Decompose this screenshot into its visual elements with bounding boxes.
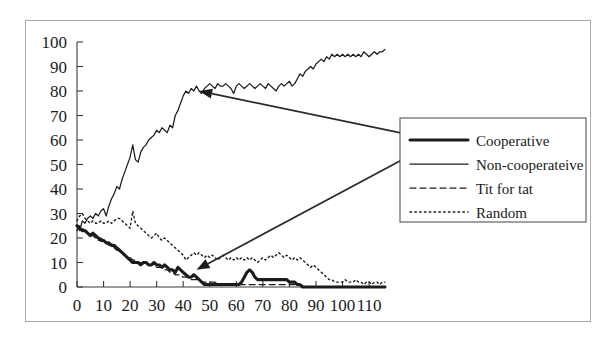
x-tick-label: 60 — [228, 296, 245, 315]
x-tick-label: 80 — [281, 296, 298, 315]
x-tick-label: 20 — [122, 296, 139, 315]
x-axis-tick-labels: 0102030405060708090100110 — [73, 296, 382, 315]
y-axis-group: 0102030405060708090100 — [42, 33, 84, 297]
y-tick-label: 50 — [50, 156, 67, 175]
x-tick-label: 50 — [201, 296, 218, 315]
x-tick-label: 90 — [307, 296, 324, 315]
x-tick-label: 10 — [95, 296, 112, 315]
y-tick-label: 80 — [50, 82, 67, 101]
x-tick-label: 40 — [175, 296, 192, 315]
legend: CooperativeNon-cooperateiveTit for tatRa… — [400, 118, 586, 222]
y-axis-ticks — [77, 42, 83, 287]
arrow-to-non-cooperative-shaft — [212, 94, 412, 135]
x-tick-label: 30 — [148, 296, 165, 315]
legend-label: Random — [476, 205, 527, 221]
series-line-cooperative — [77, 226, 385, 287]
y-tick-label: 10 — [50, 254, 67, 273]
y-tick-label: 30 — [50, 205, 67, 224]
y-tick-label: 60 — [50, 131, 67, 150]
annotation-arrows-group — [196, 89, 411, 270]
y-tick-label: 90 — [50, 58, 67, 77]
x-tick-label: 70 — [254, 296, 271, 315]
arrow-to-cooperative-shaft — [208, 155, 412, 264]
x-tick-label: 110 — [357, 296, 382, 315]
y-tick-label: 70 — [50, 107, 67, 126]
series-line-random — [77, 211, 385, 284]
arrow-to-cooperative-head — [196, 259, 210, 270]
y-tick-label: 100 — [42, 33, 68, 52]
y-tick-label: 20 — [50, 229, 67, 248]
legend-label: Tit for tat — [476, 181, 534, 197]
chart-figure: 0102030405060708090100 01020304050607080… — [0, 0, 615, 348]
series-line-tit-for-tat — [77, 226, 385, 287]
legend-label: Non-cooperateive — [476, 157, 584, 173]
x-tick-label: 0 — [73, 296, 82, 315]
y-tick-label: 40 — [50, 180, 67, 199]
y-axis-tick-labels: 0102030405060708090100 — [42, 33, 68, 297]
series-line-non-cooperateive — [77, 49, 385, 230]
legend-label: Cooperative — [476, 133, 550, 149]
line-chart-plot: 0102030405060708090100 01020304050607080… — [0, 0, 615, 348]
y-tick-label: 0 — [59, 278, 68, 297]
x-tick-label: 100 — [330, 296, 356, 315]
